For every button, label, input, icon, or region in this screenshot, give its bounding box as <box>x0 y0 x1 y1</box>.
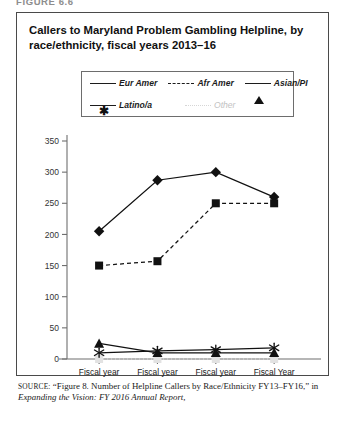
y-tick-label-350: 350 <box>45 136 59 146</box>
source-prefix: SOURCE: <box>18 382 51 391</box>
source-quoted: “Figure 8. Number of Helpline Callers by… <box>53 381 309 391</box>
data-point-2-0 <box>94 338 104 347</box>
figure-number-label: FIGURE 6.6 <box>16 0 74 8</box>
series-asian-pi <box>94 338 279 357</box>
source-italic-title: Expanding the Vision: FY 2016 Annual Rep… <box>18 392 186 402</box>
chart-svg: 050100150200250300350Fiscal year2013Fisc… <box>17 13 330 377</box>
data-point-1-2 <box>212 199 220 207</box>
series-line-1 <box>99 203 274 265</box>
x-tick-label-0: Fiscal year2013 <box>79 367 120 377</box>
series-line-0 <box>99 172 274 231</box>
data-point-1-0 <box>95 262 103 270</box>
y-tick-label-200: 200 <box>45 230 59 240</box>
x-tick-label-2: Fiscal year2015 <box>196 367 237 377</box>
source-connector: in <box>309 381 318 391</box>
plot-area: 050100150200250300350Fiscal year2013Fisc… <box>17 13 330 377</box>
source-note: SOURCE: “Figure 8. Number of Helpline Ca… <box>18 381 334 404</box>
y-tick-label-50: 50 <box>50 323 60 333</box>
y-tick-label-300: 300 <box>45 167 59 177</box>
y-tick-label-150: 150 <box>45 261 59 271</box>
series-latino-a <box>94 343 278 357</box>
y-tick-label-250: 250 <box>45 198 59 208</box>
data-point-1-1 <box>153 257 161 265</box>
x-tick-label-1: Fiscal year2014 <box>137 367 178 377</box>
series-eur-amer <box>94 167 279 237</box>
data-point-0-2 <box>211 167 221 177</box>
y-tick-label-100: 100 <box>45 292 59 302</box>
series-line-3 <box>99 348 274 353</box>
figure-frame: Callers to Maryland Problem Gambling Hel… <box>16 12 329 376</box>
x-tick-label-3: Fiscal Year2016 <box>254 367 295 377</box>
series-afr-amer <box>95 199 278 269</box>
y-tick-label-0: 0 <box>54 354 59 364</box>
